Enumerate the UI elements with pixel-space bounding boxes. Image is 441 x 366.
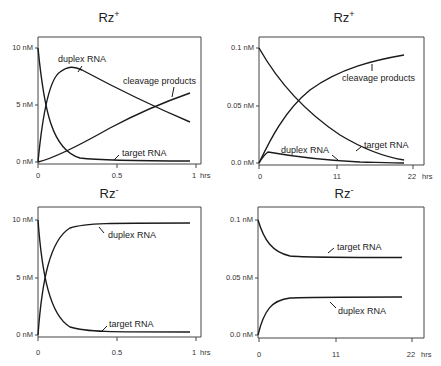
x-tick-label: 22 [408, 172, 416, 181]
curve-cleavage-products [38, 93, 190, 162]
x-tick-label: 0.5 [112, 171, 122, 180]
panel-title: Rz- [100, 185, 119, 201]
x-unit-label: hrs [200, 171, 211, 180]
x-tick-label: 22 [407, 350, 415, 359]
x-tick-label: 11 [332, 350, 340, 359]
y-tick-label: 5 nM [16, 100, 33, 109]
curve-target-rna [38, 48, 190, 161]
x-unit-label: hrs [422, 172, 433, 181]
panel-title: Rz+ [333, 9, 354, 25]
x-tick-label: 11 [333, 172, 341, 181]
label-target-rna: target RNA [364, 140, 409, 150]
label-duplex-rna: duplex RNA [58, 54, 106, 64]
panel-title: Rz- [335, 185, 354, 201]
label-cleavage-products: cleavage products [342, 73, 416, 83]
label-cleavage-products: cleavage products [123, 76, 197, 86]
y-tick-label: 0 nM [16, 330, 33, 339]
panel-top-right: Rz+ 0.1 nM 0.05 nM 0.0 nM 0 11 22 hrs cl… [227, 9, 433, 181]
panel-bottom-left: Rz- 10 nM 5 nM 0 nM 0 0.5 1 hrs duplex R… [12, 185, 211, 357]
y-tick-label: 5 nM [16, 273, 33, 282]
plot-frame [258, 207, 424, 338]
label-target-rna: target RNA [122, 148, 167, 158]
x-tick-label: 0 [36, 348, 40, 357]
y-tick-label: 0.05 nM [226, 273, 253, 282]
y-tick-label: 0 nM [16, 157, 33, 166]
y-tick-label: 0.0 nM [231, 158, 254, 167]
y-tick-label: 0.1 nM [231, 43, 254, 52]
x-tick-label: 1 [192, 171, 196, 180]
label-duplex-rna: duplex RNA [108, 230, 156, 240]
x-tick-label: 1 [192, 348, 196, 357]
label-duplex-rna: duplex RNA [281, 145, 329, 155]
panel-title: Rz+ [98, 9, 119, 25]
label-target-rna: target RNA [109, 319, 154, 329]
x-tick-label: 0 [258, 172, 262, 181]
y-tick-label: 10 nM [12, 215, 33, 224]
label-duplex-rna: duplex RNA [338, 306, 386, 316]
x-unit-label: hrs [421, 350, 432, 359]
label-target-rna: target RNA [337, 242, 382, 252]
y-tick-label: 0.1 nM [230, 215, 253, 224]
panel-top-left: Rz+ 10 nM 5 nM 0 nM 0 0.5 1 hrs duplex R… [12, 9, 211, 180]
plot-frame [38, 207, 201, 337]
x-tick-label: 0.5 [112, 348, 122, 357]
y-tick-label: 10 nM [12, 43, 33, 52]
y-tick-label: 0.05 nM [227, 101, 254, 110]
x-tick-label: 0 [36, 171, 40, 180]
y-tick-label: 0.0 nM [230, 330, 253, 339]
x-unit-label: hrs [200, 348, 211, 357]
x-tick-label: 0 [257, 350, 261, 359]
panel-bottom-right: Rz- 0.1 nM 0.05 nM 0.0 nM 0 11 22 hrs ta… [226, 185, 432, 359]
figure: Rz+ 10 nM 5 nM 0 nM 0 0.5 1 hrs duplex R… [0, 0, 441, 366]
